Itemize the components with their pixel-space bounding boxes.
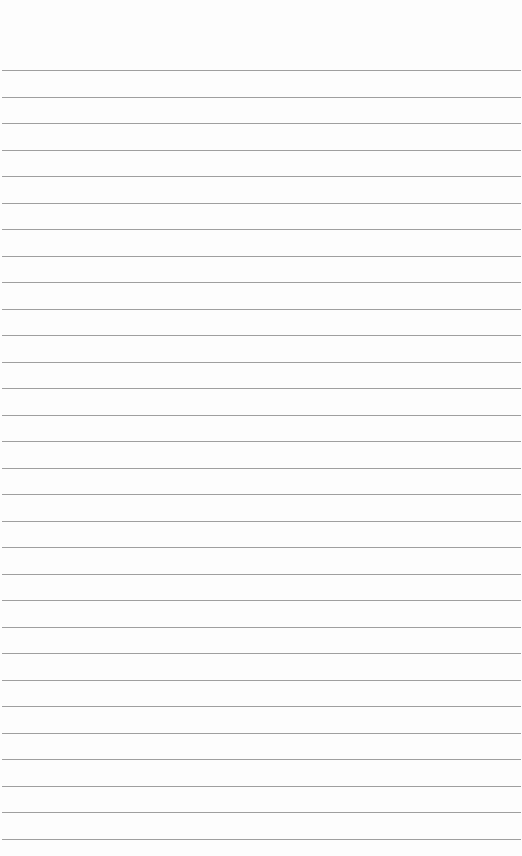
- ruled-line: [2, 256, 521, 257]
- ruled-line: [2, 415, 521, 416]
- ruled-line: [2, 441, 521, 442]
- ruled-line: [2, 388, 521, 389]
- ruled-line: [2, 150, 521, 151]
- ruled-line: [2, 653, 521, 654]
- ruled-line: [2, 786, 521, 787]
- ruled-line: [2, 574, 521, 575]
- ruled-line: [2, 123, 521, 124]
- ruled-line: [2, 468, 521, 469]
- ruled-line: [2, 706, 521, 707]
- ruled-line: [2, 229, 521, 230]
- ruled-line: [2, 70, 521, 71]
- ruled-line: [2, 362, 521, 363]
- ruled-line: [2, 759, 521, 760]
- ruled-line: [2, 680, 521, 681]
- ruled-line: [2, 97, 521, 98]
- ruled-line: [2, 335, 521, 336]
- ruled-line: [2, 733, 521, 734]
- ruled-line: [2, 839, 521, 840]
- ruled-line: [2, 494, 521, 495]
- lined-paper-page: [0, 0, 522, 856]
- ruled-line: [2, 309, 521, 310]
- ruled-line: [2, 203, 521, 204]
- ruled-line: [2, 521, 521, 522]
- ruled-line: [2, 282, 521, 283]
- ruled-line: [2, 600, 521, 601]
- ruled-line: [2, 176, 521, 177]
- ruled-line: [2, 627, 521, 628]
- ruled-line: [2, 812, 521, 813]
- ruled-line: [2, 547, 521, 548]
